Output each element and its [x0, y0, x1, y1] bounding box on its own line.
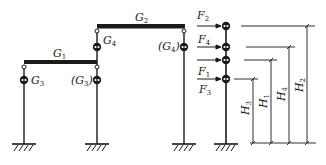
label-h2: H2	[293, 78, 307, 93]
beam-g2	[97, 24, 185, 29]
arrow-f1-head-icon	[216, 58, 221, 62]
node-f1-icon	[222, 56, 230, 64]
ground-equivalent-icon	[214, 144, 238, 151]
mass-g4-right-icon	[180, 43, 188, 51]
pin-left-top	[22, 65, 26, 69]
node-f4-icon	[222, 43, 230, 51]
equivalent-model: F2 F4 F1 F3 H3 H1 H4	[196, 9, 316, 151]
pin-middle-upper	[95, 29, 99, 33]
frame-diagram: G1 G2 G3 (G3) G4 (G4) F2 F4 F1 F3	[0, 0, 326, 165]
label-f2: F2	[196, 9, 209, 23]
label-h3: H3	[239, 101, 253, 116]
label-g4-mid: G4	[103, 34, 117, 48]
label-h4: H4	[275, 86, 289, 102]
label-g3-mid: (G3)	[71, 74, 93, 88]
label-f3: F3	[198, 83, 211, 97]
label-g4-right: (G4)	[158, 40, 180, 54]
label-f1: F1	[197, 65, 210, 79]
label-f4: F4	[197, 33, 211, 47]
beam-g1	[24, 60, 97, 64]
node-f2-icon	[222, 22, 230, 30]
arrow-f2-head-icon	[216, 24, 221, 28]
mass-g4-mid-icon	[93, 43, 101, 51]
ground-middle-icon	[85, 144, 109, 151]
pin-right-top	[182, 29, 186, 33]
mass-g3-left-icon	[20, 76, 28, 84]
ground-right-icon	[172, 144, 196, 151]
label-g1: G1	[53, 47, 66, 61]
node-f3-icon	[222, 75, 230, 83]
label-g2: G2	[135, 11, 148, 25]
arrow-f4-head-icon	[216, 45, 221, 49]
ground-left-icon	[12, 144, 36, 151]
label-g3-left: G3	[31, 74, 44, 88]
arrow-f3-head-icon	[216, 77, 221, 81]
label-h1: H1	[257, 94, 271, 109]
mass-g3-mid-icon	[93, 76, 101, 84]
left-frame: G1 G2 G3 (G3) G4 (G4)	[12, 11, 196, 151]
pin-middle-lower	[95, 65, 99, 69]
